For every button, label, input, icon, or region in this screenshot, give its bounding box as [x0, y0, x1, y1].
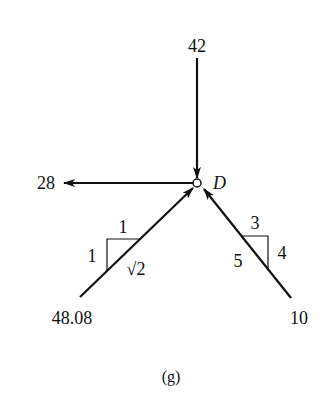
slope-right-vertical: 4 [278, 243, 287, 263]
slope-left-horizontal: 1 [119, 217, 128, 237]
force-lower-left-label: 48.08 [52, 308, 93, 328]
slope-left-hypotenuse: √2 [127, 259, 146, 279]
node-label: D [212, 173, 226, 193]
node-circle [193, 179, 201, 187]
slope-right-hypotenuse: 5 [234, 251, 243, 271]
force-diagram: 42 28 48.08 1 1 √2 10 3 4 5 D (g) [0, 0, 326, 413]
force-lower-left-arrow [80, 188, 193, 297]
slope-left-vertical: 1 [88, 246, 97, 266]
slope-right-horizontal: 3 [251, 213, 260, 233]
force-top-label: 42 [188, 36, 206, 56]
figure-caption: (g) [162, 368, 181, 386]
force-left-label: 28 [37, 173, 55, 193]
force-lower-right-label: 10 [290, 308, 308, 328]
